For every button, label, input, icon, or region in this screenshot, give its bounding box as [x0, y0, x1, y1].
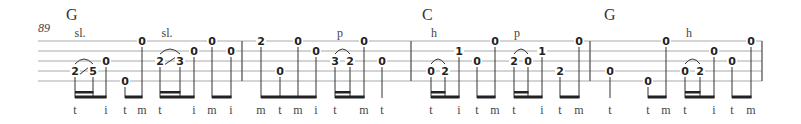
beam: [732, 96, 752, 99]
pick-finger: t: [646, 103, 650, 117]
fret-number: 0: [681, 65, 689, 78]
beam: [75, 96, 107, 99]
secondary-beam: [685, 91, 701, 94]
beam: [160, 96, 195, 99]
beam: [477, 96, 496, 99]
fret-number: 2: [696, 65, 704, 78]
fret-number: 0: [524, 55, 532, 68]
fret-number: 2: [510, 55, 518, 68]
pick-finger: i: [540, 103, 544, 117]
pick-finger: m: [293, 103, 303, 117]
measure-number: 89: [38, 21, 50, 35]
fret-number: 0: [121, 75, 129, 88]
pick-finger: t: [380, 103, 384, 117]
fret-number: 2: [156, 55, 164, 68]
pick-finger: i: [314, 103, 318, 117]
technique-label: sl.: [74, 26, 85, 40]
chord-symbol: C: [422, 6, 433, 23]
beam: [335, 96, 365, 99]
pick-finger: i: [192, 103, 196, 117]
pick-finger: t: [123, 103, 127, 117]
beams: [75, 91, 752, 99]
fret-number: 2: [346, 55, 354, 68]
pick-finger: m: [137, 103, 147, 117]
pick-finger: m: [490, 103, 500, 117]
fret-number: 0: [427, 65, 435, 78]
pick-finger: t: [608, 103, 612, 117]
header-labels: 89: [38, 21, 50, 35]
beam: [514, 96, 543, 99]
technique-label: sl.: [161, 26, 172, 40]
pick-finger: t: [73, 103, 77, 117]
secondary-beam: [431, 91, 446, 94]
fret-number: 0: [644, 75, 652, 88]
fret-number: 0: [473, 55, 481, 68]
fret-number: 0: [276, 65, 284, 78]
pick-finger: t: [512, 103, 516, 117]
secondary-beam: [514, 91, 529, 94]
beam: [560, 96, 580, 99]
beam: [648, 96, 667, 99]
technique-label: h: [686, 26, 692, 40]
fret-number: 0: [662, 35, 670, 48]
fret-number: 3: [176, 55, 184, 68]
fret-number: 2: [257, 35, 265, 48]
beam: [431, 96, 460, 99]
technique-labels: sl.sl.phph: [74, 26, 692, 40]
fret-number: 5: [89, 65, 97, 78]
banjo-tablature: 89 GCG sl.sl.phph 2500023000200032000210…: [0, 0, 801, 124]
chord-symbols: GCG: [66, 6, 616, 23]
pick-finger: t: [333, 103, 337, 117]
pick-finger: i: [229, 103, 233, 117]
fret-number: 2: [71, 65, 79, 78]
fret-number: 0: [138, 35, 146, 48]
fret-number: 0: [227, 45, 235, 58]
technique-label: p: [337, 26, 343, 40]
beam: [685, 96, 715, 99]
pick-finger: t: [558, 103, 562, 117]
pick-finger: t: [683, 103, 687, 117]
fret-number: 0: [491, 35, 499, 48]
fret-number: 0: [575, 35, 583, 48]
fret-number: 0: [312, 45, 320, 58]
pick-finger: m: [207, 103, 217, 117]
fret-number: 0: [378, 55, 386, 68]
technique-label: p: [514, 26, 520, 40]
pick-fingers: titmtimimtmitmttitmtitmttmtitm: [73, 103, 756, 117]
fret-number: 0: [728, 55, 736, 68]
pick-finger: m: [256, 103, 266, 117]
pick-finger: t: [278, 103, 282, 117]
secondary-beam: [75, 91, 94, 94]
pick-finger: t: [475, 103, 479, 117]
pick-finger: t: [158, 103, 162, 117]
fret-number: 0: [102, 55, 110, 68]
fret-number: 0: [190, 45, 198, 58]
fret-number: 1: [455, 45, 463, 58]
technique-label: h: [431, 26, 437, 40]
chord-symbol: G: [66, 6, 78, 23]
fret-number: 0: [360, 35, 368, 48]
fret-number: 0: [747, 35, 755, 48]
fret-number: 0: [208, 35, 216, 48]
pick-finger: i: [712, 103, 716, 117]
beam: [261, 96, 317, 99]
pick-finger: t: [429, 103, 433, 117]
pick-finger: m: [661, 103, 671, 117]
fret-number: 0: [710, 45, 718, 58]
fret-number: 3: [331, 55, 339, 68]
beam: [212, 96, 232, 99]
chord-symbol: G: [604, 6, 616, 23]
secondary-beam: [160, 91, 181, 94]
fret-number: 0: [294, 35, 302, 48]
beam: [125, 96, 143, 99]
fret-number: 1: [538, 45, 546, 58]
fret-number: 2: [441, 65, 449, 78]
fret-number: 0: [606, 65, 614, 78]
pick-finger: t: [730, 103, 734, 117]
secondary-beam: [335, 91, 351, 94]
pick-finger: m: [574, 103, 584, 117]
pick-finger: m: [359, 103, 369, 117]
pick-finger: i: [104, 103, 108, 117]
note-stems: [75, 46, 751, 98]
fret-number: 2: [556, 65, 564, 78]
